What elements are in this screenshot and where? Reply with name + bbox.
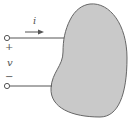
positive-sign-label: + [5,42,13,52]
current-label: i [33,16,36,26]
current-arrow-icon [25,30,44,35]
positive-terminal-node [4,35,9,40]
negative-sign-label: − [5,72,13,82]
voltage-label: v [7,58,13,68]
circuit-diagram [0,0,135,120]
negative-terminal-node [4,83,9,88]
circuit-element-body [51,4,127,117]
